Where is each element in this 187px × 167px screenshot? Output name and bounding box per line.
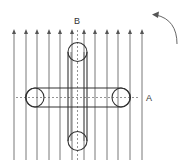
- field-arrow-icon: [93, 29, 97, 160]
- field-arrow-icon: [116, 29, 120, 160]
- field-arrow-icon: [58, 29, 62, 160]
- field-arrow-icon: [12, 29, 16, 160]
- axis-b-label: B: [74, 16, 80, 26]
- field-arrow-icon: [70, 29, 74, 160]
- field-arrow-icon: [47, 29, 51, 160]
- axis-a-label: A: [146, 93, 152, 103]
- field-arrow-icon: [105, 29, 109, 160]
- field-lines: [12, 29, 144, 160]
- rotation-arrow-icon: [152, 12, 177, 45]
- field-arrow-icon: [35, 29, 39, 160]
- cylinder-cross-diagram: B A: [0, 0, 187, 167]
- field-arrow-icon: [140, 29, 144, 160]
